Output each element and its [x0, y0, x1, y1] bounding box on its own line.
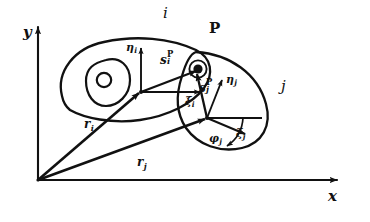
s-j-vector-label: sPj [199, 82, 206, 94]
body-i-eta-subscript: i [134, 46, 137, 55]
body-i-inner-lobe [86, 59, 130, 106]
contact-point-P [193, 64, 202, 73]
s-i-subscript: i [167, 57, 170, 65]
body-i-xi-subscript: i [192, 100, 195, 109]
s-j-base: s [199, 81, 206, 95]
body-j-xi-label: ξj [236, 128, 246, 141]
kinematics-figure: y x i j P ηi ξi ηj ξj φj sPi sPj ri rj [0, 0, 370, 222]
body-j-angle-symbol: φ [209, 132, 219, 145]
s-i-vector-label: sPi [160, 54, 167, 66]
r-i-vector-label: ri [84, 118, 94, 132]
s-i-base: s [160, 53, 167, 67]
body-i-eta-symbol: η [126, 41, 134, 54]
global-position-vectors [38, 93, 205, 180]
r-i-vector [38, 93, 139, 180]
s-j-symbol-group: sPj [199, 82, 206, 94]
figure-drawing [0, 0, 370, 222]
body-j-xi-symbol: ξ [236, 127, 243, 140]
body-j-angle-subscript: j [219, 137, 222, 146]
body-j-eta-symbol: η [226, 73, 234, 86]
y-axis-label: y [23, 25, 32, 40]
s-j-subscript: j [206, 85, 209, 93]
s-i-symbol-group: sPi [160, 54, 167, 66]
r-j-vector [38, 119, 205, 180]
body-i-xi-symbol: ξ [185, 95, 192, 108]
body-j-xi-subscript: j [243, 132, 246, 141]
point-P-label: P [209, 21, 220, 36]
body-j-eta-label: ηj [226, 74, 237, 87]
body-i-hole [97, 73, 111, 87]
r-j-subscript: j [143, 161, 146, 171]
body-j-label: j [281, 79, 286, 94]
body-i-eta-label: ηi [126, 42, 137, 55]
body-j-angle-label: φj [209, 133, 222, 146]
body-j-eta-subscript: j [234, 78, 237, 87]
x-axis-label: x [328, 189, 337, 204]
s-i-vector [141, 71, 196, 92]
r-i-subscript: i [90, 123, 93, 133]
r-j-vector-label: rj [137, 156, 147, 170]
body-i-label: i [163, 6, 168, 21]
body-i-xi-label: ξi [185, 96, 195, 109]
